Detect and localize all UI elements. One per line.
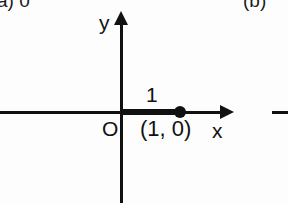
x-axis-arrow-icon	[220, 105, 234, 119]
y-axis-label: y	[99, 12, 110, 33]
figure-part-b-label: (b)	[243, 0, 266, 10]
figure-part-a-label: a) 0	[0, 0, 30, 10]
figure-canvas: a) 0 (b) y x O 1 (1, 0)	[0, 0, 288, 203]
y-axis-arrow-icon	[114, 11, 128, 25]
point-coordinate-label: (1, 0)	[140, 118, 191, 140]
origin-label: O	[102, 118, 118, 139]
unit-segment	[122, 109, 180, 115]
x-axis-line	[0, 111, 224, 114]
segment-length-label: 1	[146, 84, 158, 105]
adjacent-figure-axis-fragment	[272, 111, 288, 114]
x-axis-label: x	[212, 120, 223, 141]
